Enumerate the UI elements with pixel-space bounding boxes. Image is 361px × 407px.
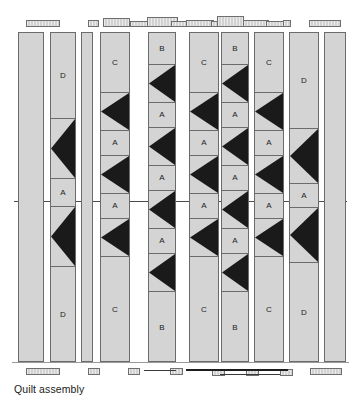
marker-top-6: [171, 21, 187, 27]
plain-block: A: [222, 229, 248, 254]
block-label-c: C: [201, 306, 207, 314]
column-4-pieced-C: CAAC: [100, 32, 130, 362]
plain-block: A: [101, 194, 129, 219]
block-label-a: A: [201, 202, 206, 210]
triangle-icon: [290, 208, 318, 262]
plain-block: C: [101, 257, 129, 362]
block-label-a: A: [266, 202, 271, 210]
triangle-icon: [255, 156, 283, 193]
marker-top-9: [217, 16, 244, 27]
marker-bottom-1: [26, 368, 60, 375]
plain-block: A: [222, 103, 248, 128]
column-5-pieced-B: BAAAB: [148, 32, 176, 362]
plain-block: D: [51, 267, 75, 362]
block-label-a: A: [232, 237, 237, 245]
marker-top-7: [186, 20, 214, 27]
block-label-c: C: [112, 59, 118, 67]
plain-block: [82, 33, 92, 362]
column-8-pieced-C: CAAC: [254, 32, 284, 362]
half-square-triangle-block: [255, 93, 283, 131]
block-label-a: A: [159, 237, 164, 245]
column-9-sashing-D: DAD: [289, 32, 319, 362]
half-square-triangle-block: [290, 129, 318, 184]
plain-block: A: [222, 166, 248, 191]
triangle-icon: [190, 219, 218, 256]
half-square-triangle-block: [149, 65, 175, 103]
half-square-triangle-block: [190, 93, 218, 131]
triangle-icon: [101, 93, 129, 130]
plain-block: A: [190, 194, 218, 219]
marker-top-2: [88, 20, 99, 27]
triangle-icon: [255, 219, 283, 256]
half-square-triangle-block: [149, 191, 175, 229]
triangle-icon: [290, 129, 318, 183]
block-label-a: A: [232, 111, 237, 119]
triangle-icon: [101, 219, 129, 256]
block-label-b: B: [159, 45, 164, 53]
column-2-sashing-D: DAD: [50, 32, 76, 362]
block-label-a: A: [60, 189, 65, 197]
triangle-icon: [149, 191, 175, 228]
block-label-b: B: [232, 324, 237, 332]
half-square-triangle-block: [101, 156, 129, 194]
block-label-a: A: [112, 139, 117, 147]
half-square-triangle-block: [101, 93, 129, 131]
column-3-plain-strip: [81, 32, 93, 362]
column-1-plain-strip: [18, 32, 44, 362]
half-square-triangle-block: [255, 219, 283, 257]
block-label-c: C: [112, 306, 118, 314]
triangle-icon: [101, 156, 129, 193]
column-7-pieced-B: BAAAB: [221, 32, 249, 362]
plain-block: C: [255, 33, 283, 93]
half-square-triangle-block: [222, 65, 248, 103]
block-label-c: C: [266, 59, 272, 67]
block-label-a: A: [201, 139, 206, 147]
block-label-d: D: [301, 77, 307, 85]
half-square-triangle-block: [190, 219, 218, 257]
plain-block: B: [149, 292, 175, 362]
plain-block: C: [101, 33, 129, 93]
plain-block: A: [255, 194, 283, 219]
block-label-a: A: [266, 139, 271, 147]
plain-block: A: [149, 166, 175, 191]
triangle-icon: [149, 128, 175, 165]
block-label-d: D: [301, 309, 307, 317]
marker-top-12: [283, 20, 291, 27]
block-label-d: D: [60, 311, 66, 319]
column-6-pieced-C: CAAC: [189, 32, 219, 362]
block-label-b: B: [232, 45, 237, 53]
block-label-a: A: [301, 192, 306, 200]
plain-block: [325, 33, 345, 362]
plain-block: C: [190, 33, 218, 93]
triangle-icon: [51, 119, 75, 178]
triangle-icon: [222, 128, 248, 165]
half-square-triangle-block: [222, 128, 248, 166]
plain-block: A: [101, 131, 129, 156]
plain-block: B: [222, 33, 248, 65]
plain-block: D: [290, 263, 318, 362]
half-square-triangle-block: [101, 219, 129, 257]
block-label-a: A: [159, 174, 164, 182]
triangle-icon: [255, 93, 283, 130]
marker-bottom-2: [88, 368, 100, 375]
half-square-triangle-block: [51, 207, 75, 267]
plain-block: C: [190, 257, 218, 362]
marker-top-3: [103, 18, 130, 27]
plain-block: A: [290, 184, 318, 208]
plain-block: C: [255, 257, 283, 362]
plain-block: A: [149, 103, 175, 128]
plain-block: B: [222, 292, 248, 362]
triangle-icon: [222, 254, 248, 291]
block-label-c: C: [266, 306, 272, 314]
plain-block: D: [290, 33, 318, 129]
marker-top-13: [309, 20, 341, 27]
half-square-triangle-block: [149, 128, 175, 166]
plain-block: A: [255, 131, 283, 156]
triangle-icon: [222, 191, 248, 228]
block-label-d: D: [60, 72, 66, 80]
marker-bottom-3: [128, 368, 140, 375]
plain-block: D: [51, 33, 75, 119]
block-label-a: A: [159, 111, 164, 119]
half-square-triangle-block: [149, 254, 175, 292]
half-square-triangle-block: [190, 156, 218, 194]
